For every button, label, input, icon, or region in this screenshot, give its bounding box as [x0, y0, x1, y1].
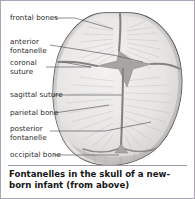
figure-frame: frontal bones anterior fontanelle corona…: [0, 0, 195, 199]
figure-caption: Fontanelles in the skull of a new-born i…: [9, 169, 187, 191]
caption-divider: [8, 165, 187, 166]
label-occipital-bone: occipital bone: [10, 151, 61, 160]
skull-illustration: frontal bones anterior fontanelle corona…: [1, 1, 194, 165]
label-posterior-fontanelle: posterior fontanelle: [10, 125, 54, 142]
label-anterior-fontanelle: anterior fontanelle: [10, 38, 54, 55]
label-frontal-bones: frontal bones: [10, 14, 58, 23]
label-parietal-bone: parietal bone: [10, 109, 58, 118]
label-coronal-suture: coronal suture: [10, 59, 54, 76]
label-sagittal-suture: sagittal suture: [10, 91, 63, 100]
